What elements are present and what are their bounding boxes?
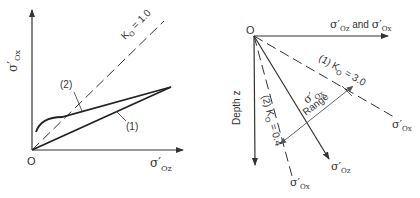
left-origin-label: O — [27, 155, 36, 167]
right-diagram: O σ′Oz and σ′Ox Depth z (1) KO = 3.0 (2)… — [231, 18, 412, 191]
curve-1-leader — [116, 111, 126, 121]
k0-3-dashed-line — [254, 36, 394, 117]
line1-end-label: σ′Ox — [392, 118, 412, 133]
k0-3-label: (1) KO = 3.0 — [316, 52, 368, 90]
x-axis-label: σ′Oz — [150, 156, 172, 173]
depth-axis — [254, 36, 255, 165]
sigma-oz-end-label: σ′Oz — [331, 160, 351, 175]
y-axis-label: σ′Ox — [6, 50, 22, 72]
svg-text:(2) KO = 0.4: (2) KO = 0.4 — [258, 94, 284, 148]
curve-2-path — [36, 87, 171, 132]
svg-text:Depth z: Depth z — [231, 91, 242, 125]
svg-text:KO = 1.0: KO = 1.0 — [119, 7, 155, 43]
curve-1-label: (1) — [126, 121, 138, 132]
horizontal-axis-label: σ′Oz and σ′Ox — [330, 18, 391, 33]
right-origin-label: O — [246, 24, 255, 36]
k0-1-label: KO = 1.0 — [119, 7, 155, 43]
depth-label: Depth z — [231, 91, 242, 125]
range-tick-1 — [342, 86, 352, 96]
svg-text:σ′Ox: σ′Ox — [6, 50, 22, 72]
svg-text:(1) KO = 3.0: (1) KO = 3.0 — [316, 52, 368, 90]
k0-1-dashed-line — [32, 21, 164, 150]
left-diagram: O σ′Ox σ′Oz KO = 1.0 (2) (1) — [6, 7, 183, 173]
curve-2-label: (2) — [60, 79, 72, 90]
k0-04-label: (2) KO = 0.4 — [258, 94, 284, 148]
line2-end-label: σ′Ox — [290, 176, 310, 191]
